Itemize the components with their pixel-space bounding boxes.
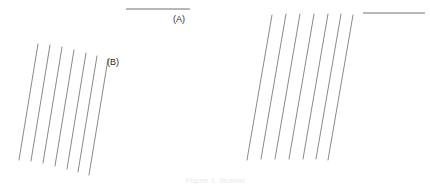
horizontal-lines-group <box>126 9 425 13</box>
right-hatch-3 <box>275 14 300 159</box>
right-hatch-1 <box>247 15 272 160</box>
figure-caption: Figure 1. Illusion <box>0 176 430 184</box>
figure-canvas: (A) (B) Figure 1. Illusion <box>0 0 430 184</box>
right-hatch-4 <box>289 14 314 159</box>
right-hatch-6 <box>316 14 341 159</box>
left-hatch-3 <box>43 47 62 163</box>
right-hatch-5 <box>303 14 328 159</box>
left-hatch-7 <box>89 59 108 175</box>
left-hatch-5 <box>67 53 86 169</box>
figure-line-art <box>0 0 430 184</box>
left-hatch-group <box>19 44 108 175</box>
right-hatch-7 <box>328 15 353 160</box>
left-hatch-2 <box>31 45 50 161</box>
left-hatch-4 <box>55 50 74 166</box>
figure-label-a: (A) <box>173 14 185 24</box>
right-hatch-2 <box>261 14 286 159</box>
figure-label-b: (B) <box>107 57 119 67</box>
right-hatch-group <box>247 14 353 160</box>
left-hatch-1 <box>19 44 38 160</box>
left-hatch-6 <box>78 56 97 172</box>
